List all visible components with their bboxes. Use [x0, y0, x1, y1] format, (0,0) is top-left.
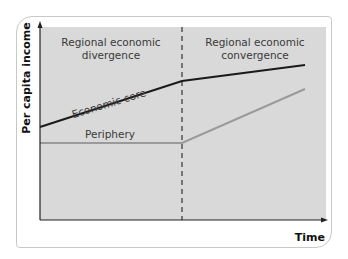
- x-axis-label: Time: [295, 231, 325, 244]
- periphery-label: Periphery: [85, 128, 135, 140]
- y-axis-label: Per capita income: [20, 22, 33, 133]
- diagram-canvas: Regional economic divergence Regional ec…: [0, 0, 348, 259]
- left-region-label-1: Regional economic: [61, 36, 161, 48]
- left-region-label-2: divergence: [82, 49, 140, 61]
- right-region-label-1: Regional economic: [205, 36, 305, 48]
- right-region-label-2: convergence: [221, 49, 289, 61]
- y-axis-arrow-icon: [38, 21, 43, 28]
